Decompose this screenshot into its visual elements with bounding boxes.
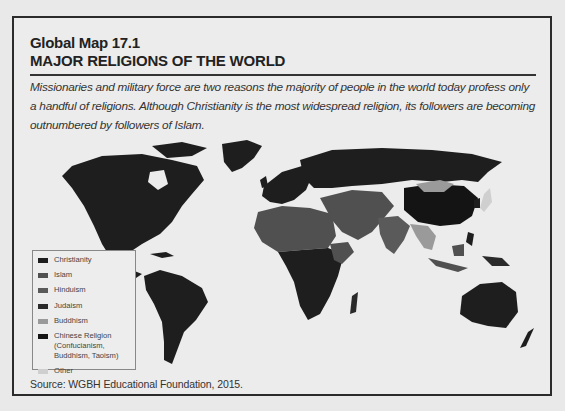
chinese-religion-swatch-icon (38, 334, 48, 339)
figure-label: Global Map 17.1 (30, 34, 140, 51)
region-indonesia (428, 258, 468, 272)
other-swatch-icon (38, 369, 48, 374)
region-madagascar (350, 292, 358, 314)
buddhism-swatch-icon (38, 319, 48, 324)
region-new-zealand (520, 328, 534, 348)
legend-label: Christianity (54, 255, 92, 265)
figure-caption: Missionaries and military force are two … (30, 78, 536, 135)
legend-item-judaism: Judaism (38, 301, 131, 311)
source-citation: Source: WGBH Educational Foundation, 201… (30, 378, 243, 390)
region-arctic-islands (152, 142, 207, 158)
legend-item-hinduism: Hinduism (38, 285, 131, 295)
legend-label: Buddhism (54, 316, 88, 326)
legend-item-chinese-religion: Chinese Religion (Confucianism, Buddhism… (38, 331, 131, 361)
region-india (378, 216, 410, 254)
region-southeast-asia (410, 224, 436, 250)
region-north-africa (254, 206, 336, 252)
region-greenland (222, 140, 262, 172)
region-philippines (466, 232, 474, 246)
map-figure-frame: Global Map 17.1 MAJOR RELIGIONS OF THE W… (12, 16, 552, 396)
map-legend: Christianity Islam Hinduism Judaism Budd… (32, 250, 136, 370)
region-caribbean (150, 252, 174, 258)
region-new-guinea (482, 256, 510, 266)
region-uk (260, 176, 268, 188)
judaism-swatch-icon (38, 304, 48, 309)
legend-label: Judaism (54, 301, 82, 311)
legend-label: Hinduism (54, 285, 86, 295)
legend-item-buddhism: Buddhism (38, 316, 131, 326)
region-borneo (452, 244, 464, 256)
region-australia (460, 282, 518, 328)
legend-label: Chinese Religion (Confucianism, Buddhism… (54, 331, 131, 361)
region-russia (300, 148, 502, 188)
legend-item-islam: Islam (38, 270, 131, 280)
title-divider (30, 74, 536, 76)
islam-swatch-icon (38, 273, 48, 278)
christianity-swatch-icon (38, 258, 48, 263)
legend-label: Islam (54, 270, 72, 280)
legend-item-other: Other (38, 366, 131, 376)
figure-title: MAJOR RELIGIONS OF THE WORLD (30, 52, 285, 69)
region-south-america (144, 270, 208, 364)
hinduism-swatch-icon (38, 288, 48, 293)
region-japan (480, 188, 492, 212)
legend-label: Other (54, 366, 73, 376)
legend-item-christianity: Christianity (38, 255, 131, 265)
